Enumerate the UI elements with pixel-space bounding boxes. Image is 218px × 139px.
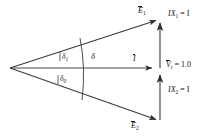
phasor-diagram-figure: E1 I E2 δ1 δ0 δ IX1= I Vt=1.0 IX2= I [0,0,218,139]
diagram-canvas [0,0,218,139]
component-label-upper-symbol: IX [168,9,176,18]
locus-arc [80,38,84,100]
angle-label-delta1: δ1 [62,53,68,61]
component-label-lower-symbol: IX [168,85,176,94]
vector-label-e2: E2 [131,122,139,130]
component-label-lower: IX2= I [168,86,190,94]
terminal-voltage-label: Vt=1.0 [166,61,191,69]
vector-label-current-symbol: I [133,55,136,63]
vector-label-e1-subscript: 1 [143,10,146,16]
angle-label-delta-symbol: δ [91,51,95,61]
vector-label-e2-subscript: 2 [136,125,139,131]
vector-label-current: I [133,55,136,63]
angle-label-delta: δ [91,52,95,61]
component-label-lower-equals: = I [180,85,189,94]
component-label-lower-subscript: 2 [176,89,179,95]
component-label-upper: IX1= I [168,10,190,18]
terminal-voltage-subscript: t [171,64,173,70]
terminal-voltage-value: 1.0 [181,60,191,69]
angle-label-delta0: δ0 [60,75,66,83]
component-label-upper-subscript: 1 [176,13,179,19]
angle-label-delta0-symbol: δ [60,74,64,83]
angle-label-delta1-symbol: δ [62,52,66,61]
angle-label-delta1-subscript: 1 [66,56,69,62]
angle-label-delta0-subscript: 0 [64,78,67,84]
vector-label-e1: E1 [138,7,146,15]
terminal-voltage-equals: = [174,60,179,69]
component-label-upper-equals: = I [180,9,189,18]
